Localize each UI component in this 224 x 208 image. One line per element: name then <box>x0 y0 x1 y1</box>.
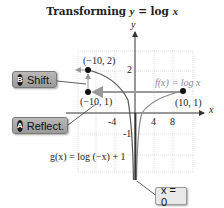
point-label-10-1: (10, 1) <box>175 97 202 108</box>
shift-callout: B Shift. <box>12 71 57 88</box>
point-neg10-2 <box>85 67 91 73</box>
shift-label: Shift. <box>27 74 52 86</box>
x-axis-label: x <box>209 104 213 115</box>
point-10-1 <box>180 88 186 94</box>
x-tick-neg4: -4 <box>108 116 116 127</box>
g-function-label: g(x) = log (−x) + 1 <box>50 151 126 162</box>
reflect-callout: A Reflect. <box>12 117 68 134</box>
y-axis-label: y <box>131 19 135 30</box>
asymptote-callout: x = 0 <box>155 187 187 205</box>
x-tick-4: 4 <box>151 116 156 127</box>
f-function-label: f(x) = log x <box>155 77 200 88</box>
y-tick-neg1: -1 <box>123 128 131 139</box>
reflect-label: Reflect. <box>27 120 64 132</box>
point-label-neg10-2: (−10, 2) <box>83 55 115 66</box>
b-badge-icon: B <box>17 74 23 86</box>
y-tick-2: 2 <box>127 64 132 75</box>
point-neg10-1 <box>85 89 91 95</box>
asymptote-label: x = 0 <box>161 184 181 208</box>
point-label-neg10-1: (−10, 1) <box>80 96 112 107</box>
x-tick-8: 8 <box>170 116 175 127</box>
a-badge-icon: A <box>17 120 23 132</box>
